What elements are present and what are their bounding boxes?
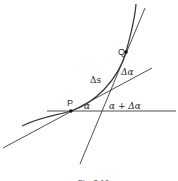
tangent-line-at-q [80, 8, 145, 164]
figure-caption: Fig. 2.10 [78, 178, 110, 181]
curvature-diagram: P Q Δs Δα α α + Δα Fig. 2.10 [0, 0, 178, 181]
label-alpha-plus-delta-alpha: α + Δα [109, 101, 141, 111]
label-p: P [67, 98, 73, 108]
point-p [69, 109, 73, 113]
label-arc-delta-s: Δs [90, 75, 101, 85]
label-delta-alpha: Δα [120, 67, 134, 77]
label-alpha: α [84, 101, 90, 111]
label-q: Q [118, 47, 125, 57]
